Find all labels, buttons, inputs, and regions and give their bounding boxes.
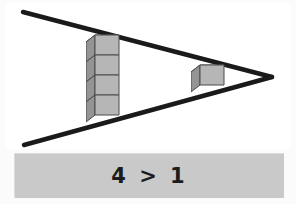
caption-bar: 4 > 1 <box>14 153 284 198</box>
cube-front-face <box>200 65 224 85</box>
cube-front-face <box>95 35 119 55</box>
cube-front-face <box>95 75 119 95</box>
wedge-top-arm <box>23 12 272 77</box>
caption-text: 4 > 1 <box>111 166 187 187</box>
wedge-bottom-arm <box>24 77 272 145</box>
cube-front-face <box>95 55 119 75</box>
figure-root: 4 > 1 <box>0 0 296 204</box>
cube-front-face <box>95 95 119 115</box>
cube-stack-left <box>86 32 124 124</box>
diagram-canvas <box>5 3 291 149</box>
greater-than-angle-icon <box>5 3 291 149</box>
cube-single-right <box>191 61 229 99</box>
cube-side-face <box>191 65 200 92</box>
